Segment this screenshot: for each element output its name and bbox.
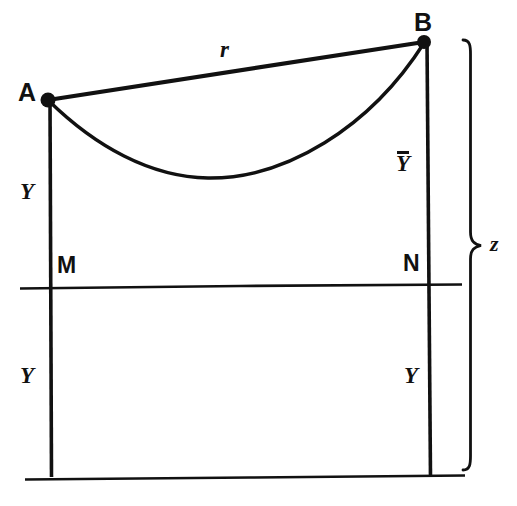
label-chord-r: r	[220, 38, 229, 61]
point-a-dot	[41, 93, 56, 108]
label-point-b: B	[414, 10, 432, 35]
label-left-lower-y: Y	[20, 364, 34, 387]
diagram-vector-layer	[0, 0, 517, 506]
bottom-horizontal-line	[25, 476, 465, 480]
label-point-n: N	[403, 252, 420, 275]
catenary-curve	[49, 43, 424, 178]
point-b-dot	[417, 35, 431, 49]
label-brace-z: z	[490, 233, 499, 255]
height-brace	[463, 40, 481, 470]
label-left-upper-y: Y	[20, 180, 34, 203]
chord-line-ab	[48, 42, 424, 100]
label-point-m: M	[57, 254, 76, 277]
label-point-a: A	[18, 80, 36, 105]
label-right-upper-y-bar: Y	[396, 152, 410, 175]
middle-horizontal-line	[20, 285, 462, 289]
overbar-icon	[397, 151, 409, 154]
label-right-upper-y-bar-text: Y	[396, 151, 410, 176]
label-right-lower-y: Y	[404, 364, 418, 387]
y-bar-glyph: Y	[396, 152, 410, 175]
right-vertical-line	[427, 41, 431, 477]
diagram-canvas: A B M N r Y Y Y Y z	[0, 0, 517, 506]
